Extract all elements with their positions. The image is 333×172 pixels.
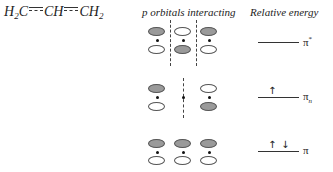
p-lobe-shaded bbox=[174, 45, 191, 54]
p-lobe-unshaded bbox=[200, 84, 217, 93]
p-lobe-shaded bbox=[200, 27, 217, 36]
nodal-plane bbox=[196, 20, 197, 66]
ch-group: CH bbox=[79, 4, 98, 19]
p-lobe-shaded bbox=[174, 139, 191, 148]
carbon-nucleus bbox=[208, 96, 211, 99]
p-lobe-shaded bbox=[200, 139, 217, 148]
p-lobe-unshaded bbox=[148, 102, 165, 111]
partial-double-bond bbox=[29, 7, 43, 12]
energy-level-pi-star bbox=[258, 42, 299, 43]
electron-up-arrow-icon: ↑ bbox=[268, 86, 276, 96]
p-lobe-shaded bbox=[148, 27, 165, 36]
energy-header: Relative energy bbox=[250, 6, 318, 18]
label-pi: π bbox=[303, 144, 309, 156]
p-lobe-shaded bbox=[148, 139, 165, 148]
subscript: 2 bbox=[99, 11, 104, 21]
p-lobe-unshaded bbox=[200, 156, 217, 165]
carbon-nucleus bbox=[208, 39, 211, 42]
orbitals-header: p orbitals interacting bbox=[142, 6, 236, 18]
carbon-nucleus bbox=[182, 96, 185, 99]
carbon-nucleus bbox=[182, 151, 185, 154]
molecule-formula: H2CCHCH2 bbox=[4, 4, 103, 21]
electron-down-arrow-icon: ↓ bbox=[281, 140, 289, 150]
p-lobe-unshaded bbox=[200, 45, 217, 54]
h-atom: H bbox=[4, 4, 14, 19]
carbon-nucleus bbox=[156, 39, 159, 42]
carbon-nucleus bbox=[182, 39, 185, 42]
energy-level-pi-n bbox=[258, 97, 299, 98]
nodal-plane bbox=[170, 20, 171, 66]
carbon-nucleus bbox=[208, 151, 211, 154]
energy-level-pi bbox=[258, 151, 299, 152]
label-pi-n: πn bbox=[303, 90, 312, 105]
p-lobe-shaded bbox=[200, 102, 217, 111]
carbon-nucleus bbox=[156, 96, 159, 99]
label-sup: * bbox=[309, 35, 313, 43]
ch-group: CH bbox=[44, 4, 63, 19]
p-lobe-unshaded bbox=[174, 156, 191, 165]
electron-up-arrow-icon: ↑ bbox=[268, 140, 276, 150]
c-atom: C bbox=[19, 4, 28, 19]
p-lobe-unshaded bbox=[174, 27, 191, 36]
p-lobe-unshaded bbox=[148, 45, 165, 54]
p-lobe-shaded bbox=[148, 84, 165, 93]
label-pi-star: π* bbox=[303, 35, 312, 48]
label-sub: n bbox=[309, 97, 313, 105]
label-symbol: π bbox=[303, 144, 309, 156]
partial-double-bond bbox=[64, 7, 78, 12]
carbon-nucleus bbox=[156, 151, 159, 154]
p-lobe-unshaded bbox=[148, 156, 165, 165]
